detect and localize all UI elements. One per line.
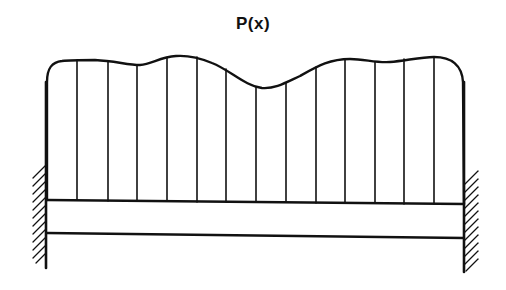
left-fixed-support xyxy=(33,82,46,268)
right-hatching-icon xyxy=(465,171,478,271)
right-fixed-support xyxy=(464,82,478,272)
beam xyxy=(47,200,464,238)
beam-diagram xyxy=(0,0,506,290)
left-hatching-icon xyxy=(33,166,45,263)
load-vertical-lines xyxy=(77,57,434,204)
